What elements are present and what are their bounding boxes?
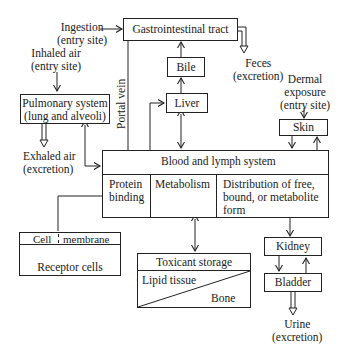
protein-binding-line2: binding (109, 191, 150, 204)
dermal-exposure-label: Dermal exposure (entry site) (280, 73, 330, 112)
feces-label: Feces (excretion) (233, 57, 283, 83)
exhaled-air-label-line1: Exhaled air (23, 150, 76, 163)
distribution-line1: Distribution of free, (223, 178, 328, 191)
toxicant-storage-box: Toxicant storage Lipid tissue Bone (137, 253, 251, 308)
pulmonary-line2: (lung and alveoli) (21, 110, 109, 123)
cell-membrane-left-label: Cell (33, 233, 51, 245)
inhaled-air-label: Inhaled air (entry site) (31, 47, 81, 73)
feces-label-line2: (excretion) (233, 70, 283, 83)
metabolism-cell: Metabolism (151, 174, 217, 218)
membrane-divider (58, 234, 59, 243)
feces-label-line1: Feces (233, 57, 283, 70)
dermal-exposure-label-line1: Dermal (280, 73, 330, 86)
ingestion-label: Ingestion (entry site) (57, 21, 107, 47)
blood-lymph-system-box: Blood and lymph system Protein binding M… (102, 150, 329, 218)
cell-membrane-header: Cell membrane (20, 233, 120, 245)
cell-membrane-box: Cell membrane Receptor cells (19, 232, 121, 276)
ingestion-label-line2: (entry site) (57, 34, 107, 47)
bile-box: Bile (167, 57, 205, 77)
ingestion-label-line1: Ingestion (57, 21, 107, 34)
kidney-box: Kidney (264, 237, 322, 256)
lipid-tissue-label: Lipid tissue (142, 274, 196, 287)
gastrointestinal-tract-box: Gastrointestinal tract (123, 18, 238, 41)
distribution-line3: form (223, 204, 328, 217)
protein-binding-line1: Protein (109, 178, 150, 191)
distribution-line2: bound, or metabolite (223, 191, 328, 204)
blood-lymph-title: Blood and lymph system (161, 155, 276, 168)
toxicant-storage-title: Toxicant storage (138, 254, 250, 271)
inhaled-air-label-line2: (entry site) (31, 60, 81, 73)
liver-box: Liver (166, 93, 208, 113)
pulmonary-line1: Pulmonary system (21, 97, 109, 110)
distribution-cell: Distribution of free, bound, or metaboli… (217, 174, 328, 218)
dermal-exposure-label-line2: exposure (280, 86, 330, 99)
skin-box: Skin (279, 119, 328, 136)
exhaled-air-label-line2: (excretion) (23, 163, 76, 176)
exhaled-air-label: Exhaled air (excretion) (23, 150, 76, 176)
pulmonary-system-box: Pulmonary system (lung and alveoli) (20, 94, 110, 124)
inhaled-air-label-line1: Inhaled air (31, 47, 81, 60)
cell-membrane-right-label: membrane (63, 233, 109, 245)
protein-binding-cell: Protein binding (103, 174, 151, 218)
bladder-box: Bladder (264, 273, 322, 292)
bone-label: Bone (211, 292, 235, 305)
dermal-exposure-label-line3: (entry site) (280, 99, 330, 112)
toxicant-pathway-diagram: Ingestion (entry site) Inhaled air (entr… (0, 0, 346, 360)
urine-label-line1: Urine (272, 318, 322, 331)
receptor-cells-label: Receptor cells (20, 261, 120, 274)
urine-label-line2: (excretion) (272, 331, 322, 344)
urine-label: Urine (excretion) (272, 318, 322, 344)
portal-vein-label: Portal vein (115, 79, 127, 129)
